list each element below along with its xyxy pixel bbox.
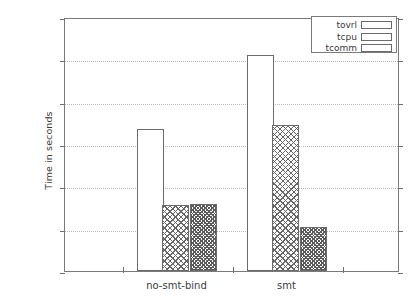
bar-no-smt-bind-tcpu [162,205,189,271]
gridline [65,188,398,189]
y-tick-mark [398,231,403,232]
legend-label: tcpu [337,32,357,42]
bar-smt-tcpu [272,125,299,271]
x-category-label: smt [217,280,357,291]
gridline [65,146,398,147]
bar-no-smt-bind-tovrl [137,129,164,271]
legend-item-tcpu: tcpu [312,31,392,42]
legend: tovrl tcpu tcomm [311,16,397,53]
x-tick-mark [343,267,344,273]
legend-label: tovrl [336,20,357,30]
y-tick-mark [60,273,65,274]
y-tick-mark [60,146,65,147]
bar-no-smt-bind-tcomm [190,204,217,271]
legend-swatch-icon [361,44,392,52]
y-tick-mark [60,19,65,20]
y-tick-mark [398,146,403,147]
bar-smt-tovrl [247,55,274,271]
legend-item-tcomm: tcomm [312,43,392,54]
y-axis-title: Time in seconds [43,61,54,241]
y-tick-mark [60,231,65,232]
gridline [65,61,398,62]
y-tick-mark [60,104,65,105]
gridline [65,104,398,105]
y-tick-mark [398,61,403,62]
y-tick-mark [60,188,65,189]
x-tick-mark [233,267,234,273]
legend-swatch-icon [361,21,392,29]
y-tick-mark [398,104,403,105]
plot-area [64,18,399,272]
legend-label: tcomm [325,43,357,53]
x-tick-mark [123,267,124,273]
gridline [65,231,398,232]
legend-item-tovrl: tovrl [312,20,392,31]
y-tick-mark [398,19,403,20]
y-tick-mark [398,273,403,274]
bar-chart: Time in seconds 00.20.40.60.811.2 no-smt… [0,0,415,303]
legend-swatch-icon [361,33,392,41]
y-tick-mark [60,61,65,62]
y-tick-mark [398,188,403,189]
bar-smt-tcomm [300,227,327,271]
